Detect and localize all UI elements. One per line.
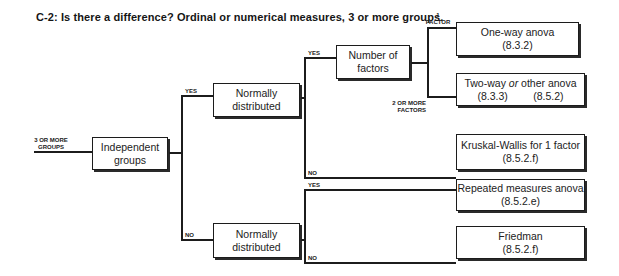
outcome-name-or: or bbox=[509, 77, 518, 89]
outcome-name-part: other anova bbox=[518, 77, 576, 89]
connector-input bbox=[34, 151, 92, 153]
edge-label-line2: FACTOR bbox=[422, 19, 454, 26]
outcome-ref: (8.5.2) bbox=[533, 90, 563, 103]
node-text: distributed bbox=[232, 100, 280, 113]
outcome-name: Repeated measures anova bbox=[457, 182, 583, 195]
outcome-friedman: Friedman (8.5.2.f) bbox=[456, 226, 585, 259]
connector-normal-top-v bbox=[304, 57, 306, 179]
connector-factors-v bbox=[427, 27, 429, 98]
edge-label-line1: 1 bbox=[422, 12, 454, 19]
outcome-ref: (8.5.2.e) bbox=[501, 195, 540, 208]
outcome-refs: (8.3.3) (8.5.2) bbox=[478, 90, 564, 103]
node-text: distributed bbox=[232, 241, 280, 254]
edge-label-yes: YES bbox=[185, 88, 197, 95]
connector-trunk-v bbox=[181, 95, 183, 241]
node-text: Independent bbox=[101, 141, 159, 154]
connector-one-factor bbox=[427, 27, 456, 29]
outcome-name-part: Two-way bbox=[464, 77, 508, 89]
connector-yes-top bbox=[181, 95, 213, 97]
connector-no-bottom bbox=[181, 239, 213, 241]
input-label: 3 OR MORE GROUPS bbox=[27, 137, 75, 151]
node-independent-groups: Independent groups bbox=[92, 137, 168, 170]
outcome-ref: (8.3.3) bbox=[478, 90, 508, 103]
outcome-repeated-measures-anova: Repeated measures anova (8.5.2.e) bbox=[456, 179, 585, 211]
node-text: groups bbox=[114, 154, 146, 167]
outcome-name: Friedman bbox=[498, 230, 542, 243]
connector-yes-factors bbox=[304, 57, 336, 59]
connector-no-friedman bbox=[304, 262, 456, 264]
outcome-name: Kruskal-Wallis for 1 factor bbox=[461, 139, 580, 152]
outcome-kruskal-wallis: Kruskal-Wallis for 1 factor (8.5.2.f) bbox=[456, 134, 585, 170]
outcome-ref: (8.3.2) bbox=[502, 39, 532, 52]
outcome-two-way-anova: Two-way or other anova (8.3.3) (8.5.2) bbox=[456, 73, 585, 106]
edge-label-line1: 2 OR MORE bbox=[388, 100, 426, 107]
edge-label-no: NO bbox=[308, 170, 317, 177]
node-normally-distributed-bottom: Normally distributed bbox=[213, 223, 300, 258]
connector-normal-bottom-v bbox=[304, 189, 306, 264]
connector-two-factors bbox=[427, 96, 456, 98]
outcome-name: One-way anova bbox=[481, 26, 555, 39]
edge-label-no: NO bbox=[308, 255, 317, 262]
outcome-one-way-anova: One-way anova (8.3.2) bbox=[456, 22, 579, 56]
node-text: factors bbox=[357, 62, 389, 75]
connector-yes-repeated bbox=[304, 189, 456, 191]
outcome-name: Two-way or other anova bbox=[464, 77, 576, 90]
node-normally-distributed-top: Normally distributed bbox=[213, 83, 300, 117]
edge-label-two-factors: 2 OR MORE FACTORS bbox=[388, 100, 426, 114]
node-text: Number of bbox=[348, 49, 397, 62]
node-text: Normally bbox=[236, 87, 277, 100]
edge-label-one-factor: 1 FACTOR bbox=[422, 12, 454, 26]
edge-label-line2: FACTORS bbox=[388, 107, 426, 114]
outcome-ref: (8.5.2.f) bbox=[502, 243, 538, 256]
node-number-of-factors: Number of factors bbox=[336, 45, 410, 79]
edge-label-yes: YES bbox=[308, 50, 320, 57]
input-label-line1: 3 OR MORE bbox=[27, 137, 75, 144]
edge-label-no: NO bbox=[185, 232, 194, 239]
outcome-ref: (8.5.2.f) bbox=[502, 152, 538, 165]
input-label-line2: GROUPS bbox=[27, 144, 75, 151]
diagram-title: C-2: Is there a difference? Ordinal or n… bbox=[36, 11, 443, 23]
node-text: Normally bbox=[236, 228, 277, 241]
edge-label-yes: YES bbox=[308, 182, 320, 189]
connector-no-kruskal bbox=[304, 177, 456, 179]
